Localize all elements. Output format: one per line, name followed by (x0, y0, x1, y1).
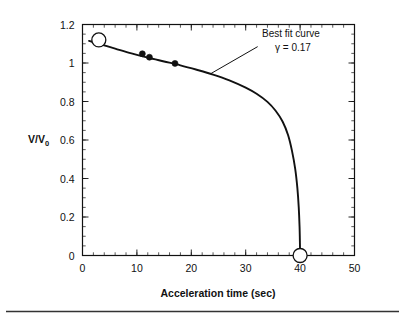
x-tick-label: 10 (131, 262, 143, 274)
figure-container: 01020304050 00.20.40.60.811.2 Best fit c… (0, 0, 405, 320)
x-tick-label: 0 (80, 262, 86, 274)
y-tick-label: 1.2 (60, 19, 75, 31)
annotation-gamma-value: γ = 0.17 (275, 42, 311, 53)
y-tick-label: 0.8 (60, 96, 75, 108)
acceleration-time-chart: 01020304050 00.20.40.60.811.2 Best fit c… (0, 0, 405, 320)
y-tick-label: 0 (69, 250, 75, 262)
endpoint-marker (293, 249, 307, 263)
data-point-marker (172, 60, 178, 66)
y-tick-label: 0.2 (60, 211, 75, 223)
data-point-marker (139, 51, 145, 57)
x-tick-label: 50 (349, 262, 361, 274)
endpoint-marker (92, 33, 106, 47)
data-point-marker (146, 54, 152, 60)
x-tick-label: 20 (185, 262, 197, 274)
y-tick-label: 0.4 (60, 173, 75, 185)
x-axis-title: Acceleration time (sec) (161, 287, 276, 299)
chart-background (0, 0, 405, 320)
y-tick-label: 1 (69, 57, 75, 69)
x-tick-label: 30 (240, 262, 252, 274)
annotation-best-fit-label: Best fit curve (262, 28, 320, 39)
x-tick-label: 40 (294, 262, 306, 274)
gamma-value-text: = 0.17 (280, 42, 311, 53)
y-tick-label: 0.6 (60, 134, 75, 146)
